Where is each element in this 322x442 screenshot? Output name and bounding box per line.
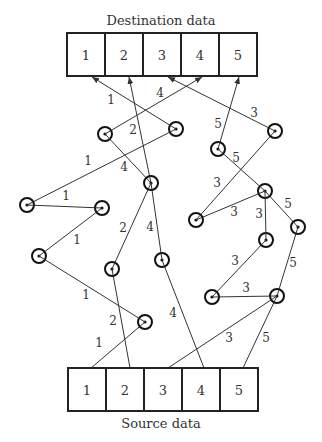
source-cell-5: 5: [220, 368, 258, 411]
edge-label: 3: [242, 281, 250, 295]
edge-label: 3: [231, 254, 239, 268]
edge-label: 1: [82, 288, 90, 302]
edge-label: 2: [109, 314, 117, 328]
edge-label: 4: [169, 306, 177, 320]
destination-cell-label: 5: [234, 48, 242, 63]
destination-cell-2: 2: [105, 33, 143, 76]
source-cell-label: 4: [197, 383, 205, 398]
edge-label: 3: [230, 205, 238, 219]
destination-cell-label: 1: [82, 48, 90, 63]
edge-label: 1: [107, 93, 115, 107]
data-flow-diagram: Destination data 12345 12345 11111122244…: [0, 0, 322, 442]
edge-label: 5: [262, 331, 270, 345]
destination-cell-5: 5: [219, 33, 257, 76]
edge-label: 3: [250, 106, 258, 120]
destination-cell-3: 3: [143, 33, 181, 76]
edge-label: 5: [284, 197, 292, 211]
destination-row: 12345: [67, 33, 257, 76]
destination-cell-1: 1: [67, 33, 105, 76]
edge-label: 4: [146, 220, 154, 234]
source-cell-4: 4: [182, 368, 220, 411]
destination-cell-4: 4: [181, 33, 219, 76]
source-cell-label: 1: [83, 383, 91, 398]
edge-label: 1: [73, 233, 81, 247]
source-cell-3: 3: [144, 368, 182, 411]
edge-label: 1: [62, 189, 70, 203]
edge-label: 3: [255, 207, 263, 221]
source-cell-label: 2: [121, 383, 129, 398]
edge-q-l: [39, 256, 145, 322]
edge-c-dst5: [218, 77, 239, 149]
source-cell-label: 3: [159, 383, 167, 398]
edge-label: 3: [213, 176, 221, 190]
edge-label: 5: [214, 117, 222, 131]
edge-label: 1: [95, 336, 103, 350]
edge-p-o: [212, 296, 277, 297]
destination-cell-label: 4: [196, 48, 204, 63]
edges: [27, 77, 298, 368]
edge-e-a: [105, 134, 151, 183]
destination-title: Destination data: [106, 13, 215, 28]
source-cell-2: 2: [106, 368, 144, 411]
edge-label: 5: [232, 151, 240, 165]
source-title: Source data: [121, 416, 201, 431]
source-row: 12345: [68, 368, 258, 411]
edge-m-e: [112, 183, 151, 269]
edge-label: 2: [129, 123, 137, 137]
destination-cell-label: 2: [120, 48, 128, 63]
edge-src3-p: [168, 296, 277, 368]
diagram-canvas: Destination data 12345 12345 11111122244…: [0, 0, 322, 442]
edge-label: 5: [289, 256, 297, 270]
edge-label: 3: [225, 331, 233, 345]
edge-label: 2: [119, 221, 127, 235]
edge-g-f: [27, 205, 102, 208]
edge-label: 4: [120, 160, 128, 174]
edge-label: 4: [156, 86, 164, 100]
nodes: [20, 122, 305, 329]
edge-a-dst4: [105, 77, 202, 134]
destination-cell-label: 3: [158, 48, 166, 63]
edge-label: 1: [84, 154, 92, 168]
source-cell-label: 5: [235, 383, 243, 398]
source-cell-1: 1: [68, 368, 106, 411]
edge-o-k: [212, 240, 266, 297]
edge-l-g: [39, 208, 102, 256]
edge-h-c: [218, 149, 265, 191]
